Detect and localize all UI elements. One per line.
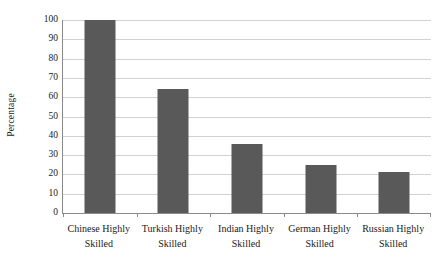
y-axis-title-label: Percentage <box>6 93 16 137</box>
x-axis-tick <box>210 213 211 217</box>
x-axis-category-label-line1: Indian Highly <box>209 221 283 236</box>
bar[interactable] <box>379 172 410 213</box>
y-axis-tick-label: 10 <box>34 189 58 199</box>
x-axis-category-label-line1: Chinese Highly <box>62 221 136 236</box>
x-axis-category-label: Indian HighlySkilled <box>209 221 283 251</box>
x-axis-tick <box>284 213 285 217</box>
bar[interactable] <box>84 20 115 213</box>
x-axis-tick <box>137 213 138 217</box>
bar-slot <box>137 20 211 213</box>
x-axis-category-label-line2: Skilled <box>356 236 430 251</box>
y-axis-tick-label: 100 <box>34 15 58 25</box>
plot-area <box>62 20 431 214</box>
y-axis-tick-label: 80 <box>34 54 58 64</box>
x-axis-tick <box>63 213 64 217</box>
x-axis-category-label-line1: German Highly <box>283 221 357 236</box>
y-axis-tick-label: 40 <box>34 131 58 141</box>
x-axis-category-labels: Chinese HighlySkilledTurkish HighlySkill… <box>62 221 430 265</box>
x-axis-category-label-line1: Turkish Highly <box>136 221 210 236</box>
x-axis-category-label-line2: Skilled <box>209 236 283 251</box>
x-axis-category-label-line2: Skilled <box>62 236 136 251</box>
bars-layer <box>63 20 431 213</box>
bar-slot <box>63 20 137 213</box>
x-axis-category-label-line1: Russian Highly <box>356 221 430 236</box>
y-axis-tick-label: 90 <box>34 35 58 45</box>
y-axis-tick-label: 60 <box>34 92 58 102</box>
x-axis-category-label: Chinese HighlySkilled <box>62 221 136 251</box>
bar-slot <box>357 20 431 213</box>
x-axis-tick <box>430 213 431 217</box>
bar[interactable] <box>231 144 262 213</box>
bar[interactable] <box>158 89 189 213</box>
bar-chart: Percentage 0102030405060708090100 Chines… <box>0 0 444 266</box>
y-axis-tick-label: 20 <box>34 170 58 180</box>
y-axis-tick-label: 50 <box>34 112 58 122</box>
y-axis-title: Percentage <box>0 0 22 266</box>
bar[interactable] <box>305 165 336 213</box>
y-axis-tick-label: 0 <box>34 208 58 218</box>
x-axis-category-label-line2: Skilled <box>283 236 357 251</box>
x-axis-category-label: Russian HighlySkilled <box>356 221 430 251</box>
x-axis-tick <box>357 213 358 217</box>
x-axis-category-label: German HighlySkilled <box>283 221 357 251</box>
x-axis-category-label: Turkish HighlySkilled <box>136 221 210 251</box>
bar-slot <box>210 20 284 213</box>
y-axis-tick-labels: 0102030405060708090100 <box>34 20 58 213</box>
x-axis-category-label-line2: Skilled <box>136 236 210 251</box>
y-axis-tick-label: 30 <box>34 150 58 160</box>
y-axis-tick-label: 70 <box>34 73 58 83</box>
bar-slot <box>284 20 358 213</box>
